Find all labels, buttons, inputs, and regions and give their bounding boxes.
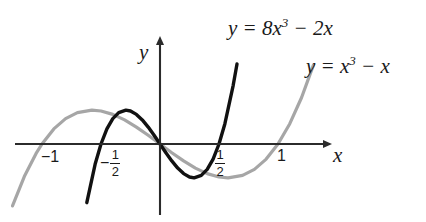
negative-half-numerator: 1 [111,148,120,162]
curve-8x-cubed-minus-2x [87,64,237,203]
one-half-fraction: 1 2 [215,148,225,179]
curve-label-1-rhs: − 2x [288,16,333,40]
function-graph-figure: y = 8x3 − 2x y = x3 − x y x −1 − 1 2 1 2… [0,0,426,222]
x-axis-label: x [333,145,342,166]
y-axis-label: y [139,42,148,63]
x-tick-label-negative-one: −1 [41,149,59,165]
curve-label-2-rhs: − x [356,54,390,78]
curve-label-8x-cubed-minus-2x: y = 8x3 − 2x [228,18,333,39]
x-tick-label-one-half: 1 2 [215,148,225,179]
plot-canvas [0,0,426,222]
curve-label-1-lhs: y = 8x [228,16,282,40]
x-tick-label-one: 1 [277,148,286,164]
negative-half-denominator: 2 [111,165,120,179]
negative-half-minus-sign: − [100,148,110,171]
curve-label-2-lhs: y = x [306,54,349,78]
x-tick-label-negative-one-half: − 1 2 [100,148,120,179]
one-half-denominator: 2 [215,165,224,179]
curve-label-x-cubed-minus-x: y = x3 − x [306,56,390,77]
curve-x-cubed-minus-x [13,65,314,206]
one-half-numerator: 1 [215,148,224,162]
negative-half-fraction: 1 2 [110,148,120,179]
